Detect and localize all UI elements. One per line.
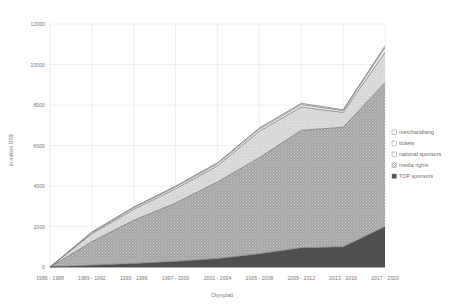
x-axis-title: Olympiad xyxy=(211,292,233,298)
legend-label: TOP sponsors xyxy=(399,173,434,179)
y-tick-label: 8000 xyxy=(33,102,45,108)
y-tick-label: 2000 xyxy=(33,224,45,230)
y-axis-title: in million US$ xyxy=(8,134,14,166)
x-tick-label: 2017 - 2020 xyxy=(371,275,399,281)
x-tick-label: 2009 - 2012 xyxy=(287,275,315,281)
x-tick-label: 1993 - 1996 xyxy=(120,275,148,281)
y-tick-label: 10000 xyxy=(31,62,46,68)
chart-canvas: 020004000600080001000012000 1985 - 19881… xyxy=(0,0,463,307)
x-tick-label: 2001 - 2004 xyxy=(204,275,232,281)
y-tick-label: 0 xyxy=(42,264,45,270)
y-tick-label: 12000 xyxy=(31,21,46,27)
x-tick-label: 2013 - 2016 xyxy=(329,275,357,281)
legend-swatch xyxy=(392,141,396,145)
legend-swatch xyxy=(392,163,396,167)
x-tick-label: 1985 - 1988 xyxy=(36,275,64,281)
legend-swatch xyxy=(392,130,396,134)
legend-swatch xyxy=(392,152,396,156)
legend-label: national sponsors xyxy=(399,151,442,157)
x-tick-label: 1989 - 1992 xyxy=(78,275,106,281)
x-tick-label: 2005 - 2008 xyxy=(246,275,274,281)
x-tick-label: 1997 - 2000 xyxy=(162,275,190,281)
y-axis-tick-labels: 020004000600080001000012000 xyxy=(31,21,46,270)
legend-label: merchandising xyxy=(399,129,434,135)
stacked-area-chart: 020004000600080001000012000 1985 - 19881… xyxy=(0,0,463,307)
legend-label: tickets xyxy=(399,140,415,146)
x-axis-tick-labels: 1985 - 19881989 - 19921993 - 19961997 - … xyxy=(36,275,399,281)
y-tick-label: 6000 xyxy=(33,143,45,149)
legend-swatch xyxy=(392,174,396,178)
legend: merchandisingticketsnational sponsorsmed… xyxy=(392,129,442,179)
y-tick-label: 4000 xyxy=(33,183,45,189)
legend-label: media rights xyxy=(399,162,429,168)
